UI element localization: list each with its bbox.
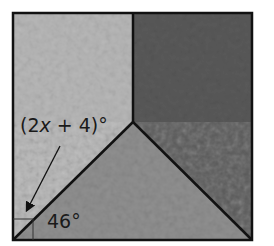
angle-expression-label: (2x + 4)° [20,116,108,135]
geometry-figure: (2x + 4)° 46° [0,0,274,246]
angle-46-label: 46° [47,212,81,231]
